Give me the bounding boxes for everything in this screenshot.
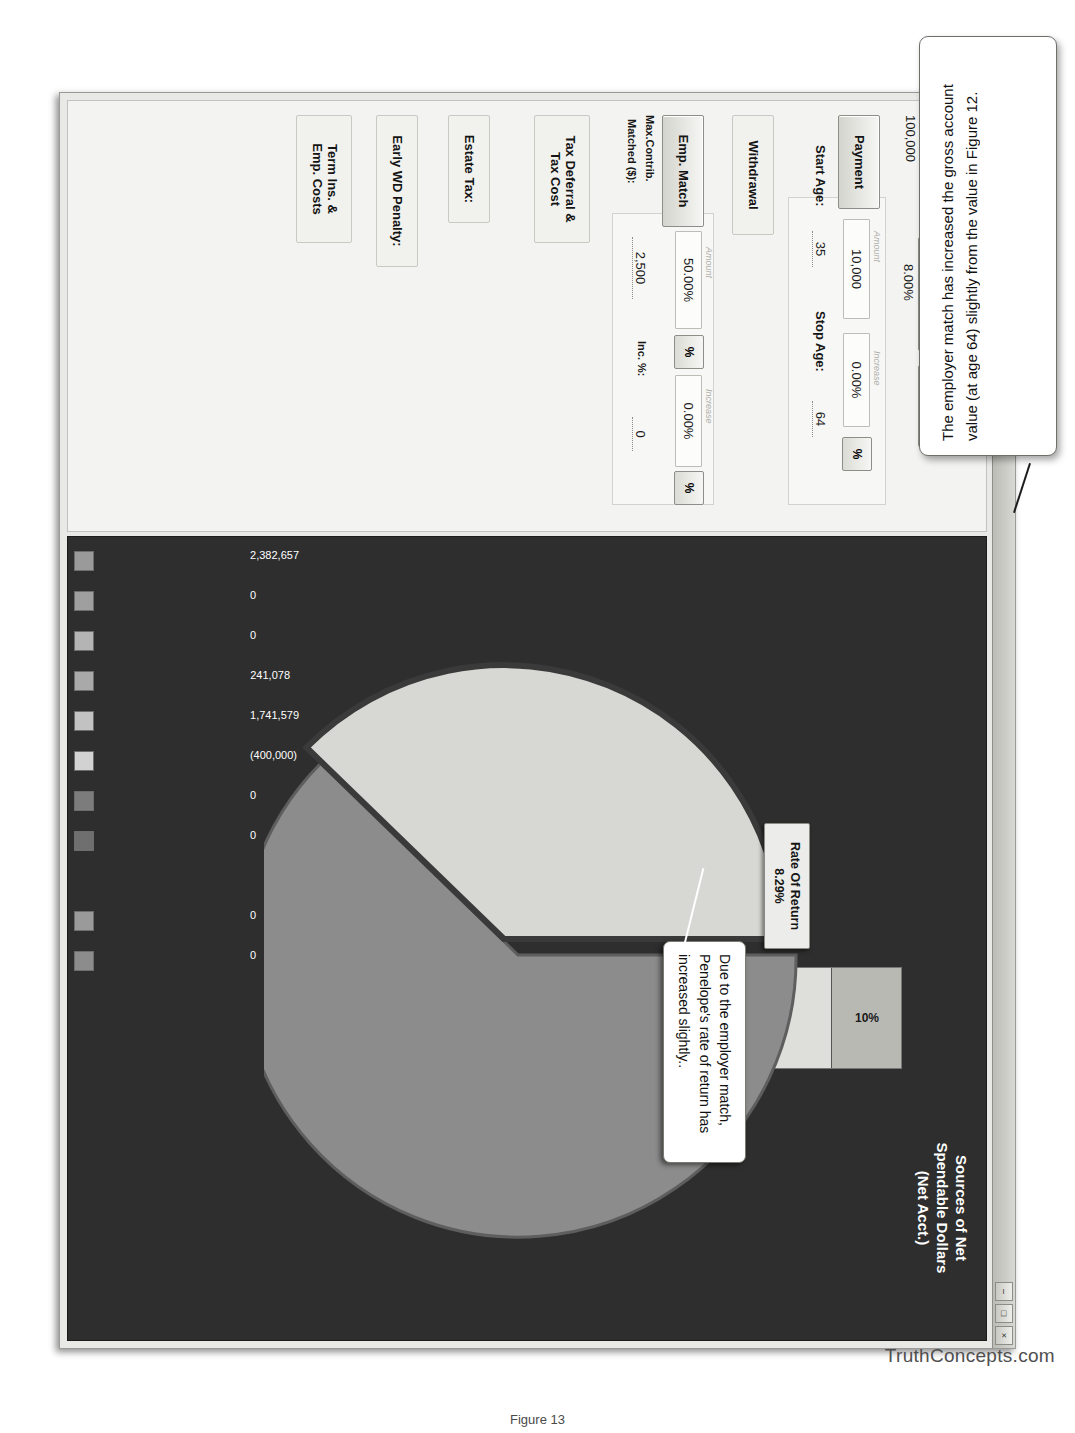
window-client-area: Current Age: 35 Projected Age: 64 Presen… bbox=[63, 96, 991, 1345]
bar-segment-0: 10% bbox=[831, 968, 901, 1068]
bar-chart-title-line3: (Net Acct.) bbox=[913, 1093, 932, 1323]
emp-match-amount-input[interactable]: 50.00% bbox=[675, 231, 702, 329]
legend-column: 0Estate Tax bbox=[68, 949, 264, 987]
payment-amount-hint: Amount bbox=[872, 231, 882, 262]
legend-label: Net Withdrawals bbox=[67, 551, 96, 589]
legend-value: 241,078 bbox=[250, 669, 290, 681]
emp-match-increase-hint: Increase bbox=[704, 389, 714, 424]
tax-deferral-line1: Tax Deferral & bbox=[562, 135, 577, 222]
legend-label: Net Employer Match bbox=[67, 631, 96, 669]
legend-label: Management Fees bbox=[67, 791, 96, 829]
max-contrib-label-line1: Max.Contrib. bbox=[644, 115, 656, 182]
rate-of-return-label: Rate Of Return bbox=[787, 841, 803, 929]
start-age-label: Start Age: bbox=[813, 145, 828, 207]
emp-match-percent-toggle[interactable]: % bbox=[674, 335, 704, 369]
application-window: Qualified Plan – □ × Current Age: 35 Pro… bbox=[59, 92, 1016, 1349]
payment-button[interactable]: Payment bbox=[838, 115, 880, 209]
input-control-panel: Current Age: 35 Projected Age: 64 Presen… bbox=[67, 100, 987, 532]
page-root: Qualified Plan – □ × Current Age: 35 Pro… bbox=[0, 0, 1075, 1433]
tax-deferral-button[interactable]: Tax Deferral & Tax Cost bbox=[534, 115, 590, 243]
bar-chart-title: Sources of Net Spendable Dollars (Net Ac… bbox=[913, 1093, 969, 1323]
legend-value: 1,741,579 bbox=[250, 709, 299, 721]
legend-label: Net Tax Deferral bbox=[67, 591, 96, 629]
payment-increase-input[interactable]: 0.00% bbox=[843, 333, 870, 427]
emp-match-increase-percent-toggle[interactable]: % bbox=[674, 471, 704, 505]
rate-of-return-value: 8.29% bbox=[770, 868, 786, 903]
stop-age-value[interactable]: 64 bbox=[812, 401, 828, 437]
tax-deferral-line2: Tax Cost bbox=[547, 152, 562, 206]
withdrawal-button[interactable]: Withdrawal bbox=[732, 115, 774, 235]
payment-percent-toggle[interactable]: % bbox=[842, 437, 872, 471]
legend-label: Estate Tax bbox=[67, 911, 96, 949]
figure-annotation-callout: The employer match has increased the gro… bbox=[919, 36, 1057, 456]
rotated-screenshot-stage: Qualified Plan – □ × Current Age: 35 Pro… bbox=[38, 52, 1038, 1382]
max-contrib-label-line2: Matched ($): bbox=[626, 119, 638, 184]
legend-label: Net Account Value bbox=[67, 536, 96, 549]
legend-column: 0Net Tax Deferral bbox=[68, 629, 264, 667]
payment-amount-input[interactable]: 10,000 bbox=[843, 219, 870, 319]
legend-value: (400,000) bbox=[250, 749, 297, 761]
present-value-value[interactable]: 100,000 bbox=[903, 115, 918, 162]
legend-value: 0 bbox=[250, 829, 256, 841]
bar-chart-title-line2: Spendable Dollars bbox=[932, 1093, 951, 1323]
legend-label: Income Taxes bbox=[67, 751, 96, 789]
early-wd-penalty-button[interactable]: Early WD Penalty: bbox=[376, 115, 418, 267]
emp-match-button[interactable]: Emp. Match bbox=[662, 115, 704, 227]
legend-column: 0Net Withdrawals bbox=[68, 589, 264, 627]
figure-caption: Figure 13 bbox=[510, 1412, 565, 1427]
term-ins-line1: Term Ins. & bbox=[324, 144, 339, 214]
legend-column: 241,078Net Employer Match bbox=[68, 669, 264, 707]
watermark: TruthConcepts.com bbox=[885, 1345, 1055, 1367]
legend-label: Early WD Penalty bbox=[67, 871, 96, 909]
window-controls: – □ × bbox=[995, 1282, 1013, 1345]
legend-value: 0 bbox=[250, 909, 256, 921]
estate-tax-button[interactable]: Estate Tax: bbox=[448, 115, 490, 223]
figure-annotation-text: The employer match has increased the gro… bbox=[936, 51, 984, 441]
legend-column: 0Income Taxes bbox=[68, 789, 264, 827]
term-ins-line2: Emp. Costs bbox=[309, 143, 324, 215]
legend-value: 0 bbox=[250, 589, 256, 601]
bar-chart-title-line1: Sources of Net bbox=[951, 1093, 970, 1323]
minimize-button[interactable]: – bbox=[995, 1282, 1013, 1301]
maximize-button[interactable]: □ bbox=[995, 1304, 1013, 1323]
legend-column: 0Management Fees bbox=[68, 829, 264, 867]
payment-increase-hint: Increase bbox=[872, 351, 882, 386]
max-contrib-value[interactable]: 2,500 bbox=[632, 237, 648, 299]
bar-segment-label-0: 10% bbox=[854, 1011, 878, 1025]
term-ins-button[interactable]: Term Ins. & Emp. Costs bbox=[296, 115, 352, 243]
legend-value: 0 bbox=[250, 789, 256, 801]
results-legend: 2,382,657Net Account Value0Net Withdrawa… bbox=[68, 537, 264, 1340]
legend-column: (400,000)Net Contributions bbox=[68, 749, 264, 787]
legend-swatch bbox=[74, 951, 94, 971]
rate-of-return-readout: Rate Of Return 8.29% bbox=[764, 823, 810, 949]
inc-pct-label: Inc. %: bbox=[636, 341, 648, 376]
legend-column: 0Early WD Penalty bbox=[68, 909, 264, 947]
pie-annotation-callout: Due to the employer match, Penelope's ra… bbox=[663, 941, 746, 1163]
emp-match-increase-input[interactable]: 0.00% bbox=[675, 375, 702, 467]
legend-value: 0 bbox=[250, 949, 256, 961]
start-age-value[interactable]: 35 bbox=[812, 231, 828, 267]
emp-match-amount-hint: Amount bbox=[704, 247, 714, 278]
legend-column: 2,382,657Net Account Value bbox=[68, 549, 264, 587]
legend-label: Net Earnings bbox=[67, 671, 96, 709]
legend-label: Net Contributions bbox=[67, 711, 96, 749]
earnings-rate-value[interactable]: 8.00% bbox=[901, 264, 916, 301]
legend-swatch bbox=[74, 831, 94, 851]
legend-value: 0 bbox=[250, 629, 256, 641]
legend-column: 1,741,579Net Earnings bbox=[68, 709, 264, 747]
stop-age-label: Stop Age: bbox=[813, 311, 828, 372]
inc-pct-value[interactable]: 0 bbox=[632, 417, 648, 451]
close-button[interactable]: × bbox=[995, 1326, 1013, 1345]
chart-stage: Sources of Net Spendable Dollars (Net Ac… bbox=[67, 536, 987, 1341]
legend-value: 2,382,657 bbox=[250, 549, 299, 561]
